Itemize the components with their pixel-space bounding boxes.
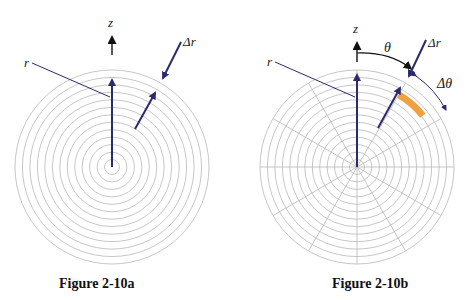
- figure-b: z θ r Δr Δθ Figure 2-10b: [260, 21, 454, 291]
- r-leader-line: [32, 63, 110, 97]
- figure-b-caption: Figure 2-10b: [332, 276, 409, 291]
- r-label: r: [24, 55, 30, 70]
- theta-arc-arrow: [357, 53, 410, 68]
- z-label: z: [107, 15, 113, 30]
- figure-a: z r Δr Figure 2-10a: [15, 15, 209, 291]
- r-leader-line: [275, 62, 355, 97]
- delta-r-outer-arrow: [163, 42, 181, 78]
- figure-a-caption: Figure 2-10a: [59, 276, 135, 291]
- z-label: z: [352, 21, 358, 36]
- delta-r-label: Δr: [427, 35, 442, 50]
- theta-label: θ: [384, 40, 391, 55]
- r-label: r: [267, 54, 273, 69]
- diagram-canvas: z r Δr Figure 2-10a z θ r Δr: [0, 0, 469, 300]
- delta-r-inner-arrow: [135, 93, 155, 129]
- delta-r-outer-arrow: [409, 40, 426, 76]
- delta-theta-label: Δθ: [436, 76, 452, 91]
- delta-r-label: Δr: [182, 34, 197, 49]
